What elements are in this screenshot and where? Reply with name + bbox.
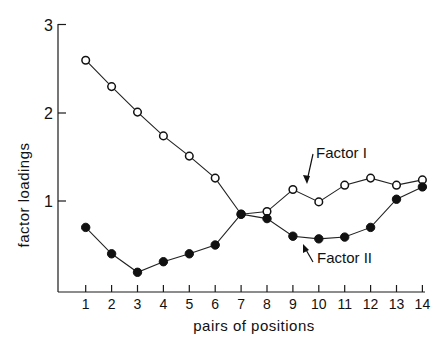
data-point-factor-i — [160, 132, 168, 140]
data-point-factor-i — [108, 83, 116, 91]
data-point-factor-i — [211, 174, 219, 182]
data-point-factor-ii — [341, 233, 349, 241]
data-point-factor-ii — [133, 268, 141, 276]
data-point-factor-i — [393, 181, 401, 189]
chart: 123 1234567891011121314 factor loadings … — [0, 0, 448, 351]
data-point-factor-i — [186, 152, 194, 160]
data-point-factor-ii — [185, 250, 193, 258]
x-tick-label: 3 — [134, 296, 142, 312]
x-ticks: 1234567891011121314 — [82, 285, 431, 312]
data-point-factor-i — [341, 181, 349, 189]
arrowhead-factor-2 — [303, 244, 309, 253]
x-tick-label: 14 — [415, 296, 431, 312]
data-point-factor-ii — [392, 195, 400, 203]
x-tick-label: 2 — [108, 296, 116, 312]
y-tick-label: 3 — [44, 17, 53, 34]
data-point-factor-i — [82, 56, 90, 64]
data-point-factor-i — [367, 174, 375, 182]
series-layer — [82, 56, 427, 276]
data-point-factor-ii — [263, 214, 271, 222]
y-axis-title: factor loadings — [15, 142, 32, 247]
data-point-factor-ii — [237, 210, 245, 218]
arrowhead-factor-1 — [303, 175, 310, 184]
x-tick-label: 12 — [363, 296, 379, 312]
x-tick-label: 1 — [82, 296, 90, 312]
annotation-factor-2: Factor II — [317, 249, 372, 266]
data-point-factor-ii — [289, 232, 297, 240]
data-point-factor-ii — [82, 223, 90, 231]
data-point-factor-ii — [366, 223, 374, 231]
annotations: Factor I Factor II — [303, 144, 372, 266]
data-point-factor-ii — [107, 250, 115, 258]
x-tick-label: 10 — [311, 296, 327, 312]
y-tick-label: 1 — [44, 193, 53, 210]
x-tick-label: 13 — [389, 296, 405, 312]
y-ticks: 123 — [44, 17, 66, 211]
x-tick-label: 4 — [160, 296, 168, 312]
data-point-factor-ii — [418, 183, 426, 191]
x-tick-label: 11 — [337, 296, 352, 312]
data-point-factor-i — [134, 108, 142, 116]
x-tick-label: 5 — [185, 296, 193, 312]
x-axis-title: pairs of positions — [193, 317, 315, 334]
x-tick-label: 7 — [237, 296, 245, 312]
annotation-factor-1: Factor I — [316, 144, 367, 161]
x-tick-label: 6 — [211, 296, 219, 312]
data-point-factor-i — [289, 186, 297, 194]
data-point-factor-ii — [315, 235, 323, 243]
series-line-factor-i — [86, 60, 423, 214]
data-point-factor-ii — [159, 258, 167, 266]
data-point-factor-ii — [211, 241, 219, 249]
series-factor-i — [82, 56, 426, 218]
series-factor-ii — [82, 183, 427, 277]
data-point-factor-i — [315, 198, 323, 206]
y-tick-label: 2 — [44, 105, 53, 122]
x-tick-label: 8 — [263, 296, 271, 312]
x-tick-label: 9 — [289, 296, 297, 312]
